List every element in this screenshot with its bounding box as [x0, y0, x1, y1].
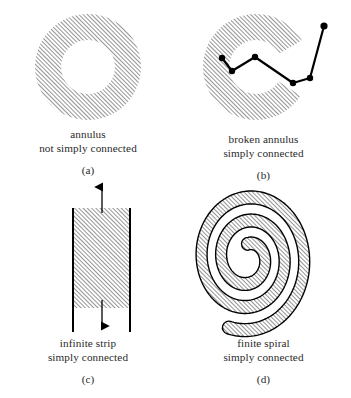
- finite-spiral-caption-line1: finite spiral: [176, 337, 351, 351]
- infinite-strip-caption-line2: simply connected: [0, 351, 176, 365]
- annulus-caption-line2: not simply connected: [0, 142, 176, 156]
- broken-annulus-caption: broken annulus simply connected (b): [176, 133, 351, 183]
- finite-spiral-caption: finite spiral simply connected (d): [176, 337, 351, 387]
- finite-spiral-panel-key: (d): [176, 373, 351, 387]
- figure-grid: annulus not simply connected (a): [0, 0, 351, 398]
- finite-spiral-diagram: [176, 180, 351, 337]
- infinite-strip-diagram: [0, 180, 176, 337]
- broken-annulus-caption-line2: simply connected: [176, 147, 351, 161]
- broken-annulus-caption-line1: broken annulus: [176, 133, 351, 147]
- annulus-svg: [0, 0, 176, 128]
- strip-hatched-region: [73, 208, 130, 308]
- panel-finite-spiral: finite spiral simply connected (d): [176, 180, 351, 398]
- annulus-hatched-region: [0, 0, 176, 128]
- broken-annulus-diagram: [176, 0, 351, 133]
- panel-infinite-strip: infinite strip simply connected (c): [0, 180, 176, 398]
- annulus-panel-key: (a): [0, 164, 176, 178]
- annulus-caption: annulus not simply connected (a): [0, 128, 176, 178]
- infinite-strip-panel-key: (c): [0, 373, 176, 387]
- annulus-diagram: [0, 0, 176, 128]
- infinite-strip-caption-line1: infinite strip: [0, 337, 176, 351]
- infinite-strip-caption: infinite strip simply connected (c): [0, 337, 176, 387]
- finite-spiral-caption-line2: simply connected: [176, 351, 351, 365]
- panel-broken-annulus: broken annulus simply connected (b): [176, 0, 351, 180]
- spiral-band: [196, 191, 310, 337]
- panel-annulus: annulus not simply connected (a): [0, 0, 176, 180]
- annulus-caption-line1: annulus: [0, 128, 176, 142]
- finite-spiral-svg: [176, 180, 351, 337]
- infinite-strip-svg: [0, 180, 176, 337]
- broken-annulus-svg: [176, 0, 351, 133]
- broken-annulus-hatched-region: [176, 0, 351, 133]
